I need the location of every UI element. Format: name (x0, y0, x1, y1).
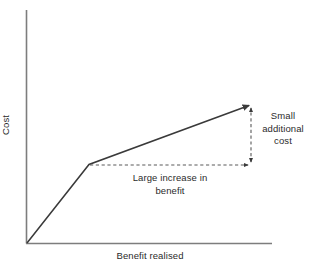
cost-benefit-chart: Cost Benefit realised Large increase in … (0, 0, 313, 271)
annotation-small-additional-cost: Small additional cost (256, 110, 310, 148)
x-axis-label: Benefit realised (90, 250, 210, 263)
y-axis-label: Cost (0, 102, 13, 148)
annotation-large-increase-in-benefit: Large increase in benefit (112, 172, 228, 197)
